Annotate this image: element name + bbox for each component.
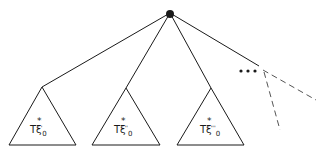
- dashed-branch-2: [264, 72, 280, 130]
- subtree-label-3: * Tξ'''0: [200, 124, 220, 135]
- subtree-triangle-2: [92, 88, 160, 145]
- ellipsis-dots: [239, 69, 256, 72]
- edge-root-subtree-1: [42, 13, 170, 87]
- tree-diagram: [0, 0, 324, 157]
- subtree-label-2: * Tξ''0: [114, 124, 132, 135]
- root-node: [166, 10, 174, 18]
- edge-root-subtree-3: [170, 13, 211, 88]
- edge-root-subtree-2: [126, 13, 170, 88]
- subtree-label-1: * Tξ'0: [30, 124, 47, 135]
- edge-root-ellipsis: [170, 13, 259, 66]
